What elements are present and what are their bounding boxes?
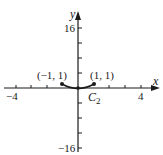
point-label-neg1-1: (−1, 1) xyxy=(37,69,67,82)
y-tick-label-16: 16 xyxy=(64,22,76,34)
point-1-1 xyxy=(92,82,96,86)
y-tick-label-neg16: −16 xyxy=(58,142,76,154)
point-label-1-1: (1, 1) xyxy=(90,69,114,82)
y-axis-arrow-icon xyxy=(75,11,81,20)
point-origin xyxy=(76,86,80,90)
x-tick-label-4: 4 xyxy=(138,90,144,102)
y-axis-label: y xyxy=(69,7,76,21)
x-axis-label: x xyxy=(152,74,159,88)
x-tick-label-neg4: −4 xyxy=(6,90,18,102)
graph-canvas: y x 16 −16 −4 4 (−1, 1) (1, 1) C2 xyxy=(0,0,163,155)
point-neg1-1 xyxy=(60,82,64,86)
curve-label: C2 xyxy=(88,90,101,106)
